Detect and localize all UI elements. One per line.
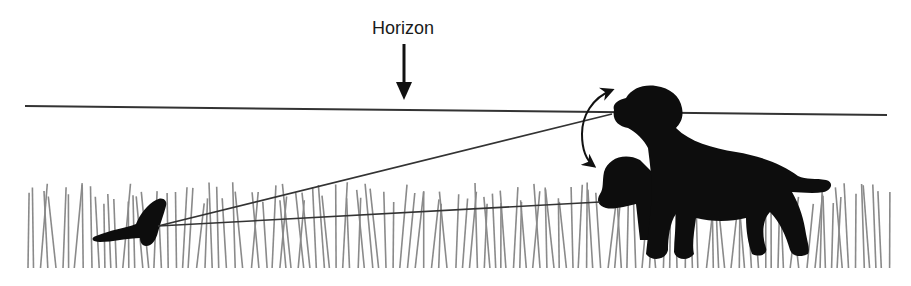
horizon-line [25, 106, 887, 115]
diagram-canvas [0, 0, 911, 286]
arrow-down-icon [396, 44, 412, 100]
curved-double-arrow-icon [582, 90, 612, 166]
